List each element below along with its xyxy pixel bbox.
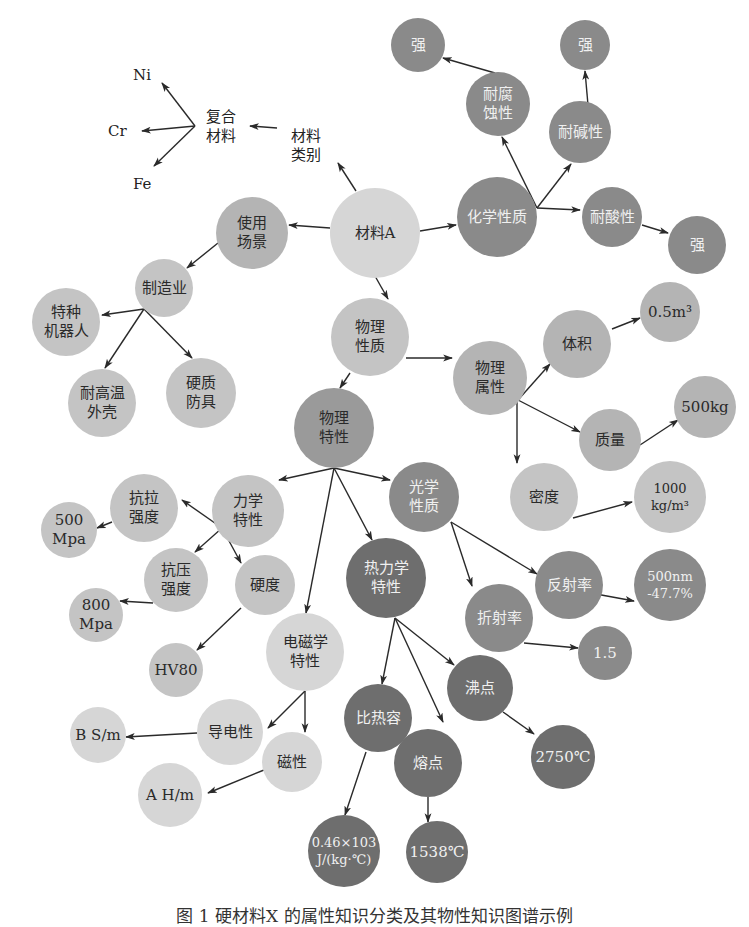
arrow-edge (640, 420, 678, 445)
node-tensile-val: 500 Mpa (41, 502, 97, 558)
node-physical-prop: 物理 特性 (294, 388, 374, 468)
node-label: 导电性 (208, 723, 253, 742)
node-strong2: 强 (560, 20, 610, 70)
node-label: 物理 性质 (355, 318, 385, 356)
arrow-edge (97, 522, 112, 528)
label-material-class: 材料 类别 (291, 127, 321, 165)
node-label: 热力学 特性 (364, 559, 409, 597)
node-conductivity: 导电性 (197, 699, 263, 765)
node-label: 硬度 (250, 576, 280, 595)
arrow-edge (162, 83, 195, 126)
node-boiling: 沸点 (447, 655, 513, 721)
node-label: 熔点 (413, 754, 443, 773)
node-label: 耐腐 蚀性 (483, 85, 513, 123)
node-mass-val: 500kg (674, 376, 736, 438)
arrow-edge (524, 643, 578, 648)
arrow-edge (451, 522, 472, 586)
node-label: 物理 属性 (475, 359, 505, 397)
node-manufacturing: 制造业 (135, 259, 193, 317)
arrow-edge (142, 126, 195, 131)
node-tensile: 抗拉 强度 (110, 474, 178, 542)
node-thermodynamic: 热力学 特性 (346, 538, 426, 618)
node-density-val: 1000 kg/m³ (634, 461, 706, 533)
node-label: 500kg (681, 398, 728, 417)
node-hardness: 硬度 (235, 555, 295, 615)
node-label: 质量 (595, 431, 625, 450)
node-mechanical: 力学 特性 (212, 475, 284, 547)
node-label: B S/m (75, 726, 120, 745)
node-label: 2750℃ (536, 748, 591, 767)
node-label: A H/m (146, 786, 194, 805)
node-label: 强 (411, 36, 426, 55)
arrow-edge (338, 163, 356, 191)
node-label: 1000 kg/m³ (651, 480, 689, 514)
node-label: 电磁学 特性 (283, 633, 328, 671)
node-label: 光学 性质 (409, 478, 439, 516)
arrow-edge (306, 468, 334, 613)
arrow-edge (105, 309, 144, 368)
node-strong1: 强 (391, 18, 445, 72)
arrow-edge (573, 502, 632, 518)
node-physical-nature: 物理 性质 (331, 298, 409, 376)
arrow-edge (642, 225, 668, 233)
node-physical-attr: 物理 属性 (453, 341, 527, 415)
arrow-edge (197, 608, 241, 650)
arrow-edge (503, 712, 534, 734)
node-alkali: 耐碱性 (549, 101, 611, 163)
arrow-edge (537, 208, 580, 210)
arrow-edge (250, 126, 277, 128)
arrow-edge (612, 318, 640, 329)
node-reflectance: 反射率 (535, 551, 603, 619)
node-label: 耐酸性 (590, 208, 635, 227)
label-fe: Fe (133, 175, 151, 194)
node-conductivity-val: B S/m (70, 707, 126, 763)
node-refraction: 折射率 (465, 584, 533, 652)
label-cr: Cr (108, 122, 127, 141)
node-specific-heat-val: 0.46×103 J/(kg·℃) (308, 815, 380, 887)
node-hardness-val: HV80 (149, 643, 203, 697)
node-melting-val: 1538℃ (406, 821, 468, 883)
node-label: 物理 特性 (319, 409, 349, 447)
node-label: 磁性 (277, 753, 307, 772)
figure-caption: 图 1 硬材料X 的属性知识分类及其物性知识图谱示例 (0, 902, 749, 927)
arrow-edge (382, 618, 395, 684)
node-boiling-val: 2750℃ (531, 725, 595, 789)
arrow-edge (518, 400, 580, 432)
node-label: 0.46×103 J/(kg·℃) (312, 834, 377, 868)
node-label: 800 Mpa (79, 596, 113, 634)
node-reflectance-val: 500nm -47.7% (634, 549, 706, 621)
arrow-edge (279, 468, 334, 480)
node-label: 沸点 (465, 679, 495, 698)
node-acid: 耐酸性 (582, 187, 642, 247)
arrow-edge (120, 601, 153, 603)
label-ni: Ni (133, 66, 151, 85)
arrow-edge (340, 373, 350, 388)
node-label: 强 (578, 36, 593, 55)
node-label: 500nm -47.7% (647, 568, 693, 602)
node-magnetism-val: A H/m (138, 763, 202, 827)
node-volume-val: 0.5m³ (640, 282, 700, 342)
node-label: 化学性质 (467, 208, 527, 227)
node-chemical: 化学性质 (457, 177, 537, 257)
node-label: 制造业 (142, 279, 187, 298)
node-label: 体积 (562, 335, 592, 354)
arrow-edge (395, 618, 454, 665)
arrow-edge (187, 243, 218, 268)
node-label: 使用 场景 (237, 214, 267, 252)
node-label: 特种 机器人 (44, 303, 89, 341)
node-label: 1.5 (593, 644, 617, 663)
arrow-edge (585, 71, 588, 105)
arrow-edge (334, 468, 390, 480)
node-label: 抗拉 强度 (129, 489, 159, 527)
node-label: 1538℃ (410, 843, 465, 862)
node-label: 强 (690, 236, 705, 255)
arrow-edge (596, 594, 634, 601)
node-label: 材料A (355, 224, 396, 243)
arrow-edge (334, 468, 372, 540)
arrow-edge (375, 276, 388, 299)
node-refraction-val: 1.5 (578, 626, 632, 680)
node-label: HV80 (154, 661, 197, 680)
arrow-edge (451, 522, 537, 574)
arrow-edge (537, 164, 571, 208)
node-volume: 体积 (543, 310, 611, 378)
